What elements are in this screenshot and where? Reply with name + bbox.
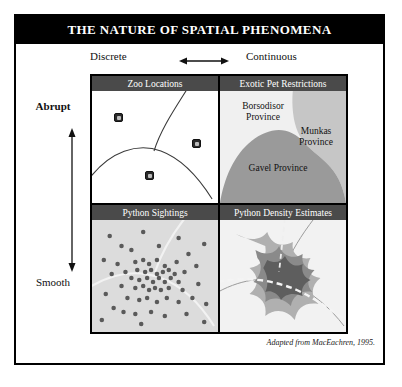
sighting-dot-map: [92, 220, 218, 332]
quadrant-exotic-pet-restrictions: Exotic Pet Restrictions Borsodisor Provi…: [219, 75, 347, 204]
axis-label-continuous: Continuous: [246, 50, 297, 62]
attribution-text: Adapted from MacEachren, 1995.: [267, 338, 376, 347]
quadrant-python-sightings: Python Sightings: [91, 204, 219, 333]
quadrant-zoo-locations: Zoo Locations: [91, 75, 219, 204]
quadrant-grid: Zoo Locations Exotic Pet Restrictions: [90, 74, 348, 334]
density-surface-map: [220, 220, 346, 332]
quadrant-body-python-sightings: [92, 220, 218, 332]
figure-container: THE NATURE OF SPATIAL PHENOMENA Discrete…: [14, 14, 385, 365]
quadrant-header-python-sightings: Python Sightings: [92, 205, 218, 220]
axis-label-smooth: Smooth: [16, 276, 90, 288]
figure-title-banner: THE NATURE OF SPATIAL PHENOMENA: [16, 16, 383, 44]
axis-label-discrete: Discrete: [90, 50, 127, 62]
axis-label-abrupt: Abrupt: [16, 100, 90, 112]
quadrant-header-exotic-pet-restrictions: Exotic Pet Restrictions: [220, 76, 346, 91]
province-label-munkas: Munkas Province: [286, 126, 346, 148]
quadrant-body-exotic-pet-restrictions: Borsodisor Province Munkas Province Gave…: [220, 91, 346, 203]
province-label-gavel: Gavel Province: [244, 163, 312, 174]
quadrant-header-zoo-locations: Zoo Locations: [92, 76, 218, 91]
double-arrow-horizontal-icon: [179, 56, 229, 66]
zoo-marker-icon: [145, 171, 154, 180]
page-title: THE NATURE OF SPATIAL PHENOMENA: [68, 22, 332, 38]
quadrant-body-zoo-locations: [92, 91, 218, 203]
double-arrow-vertical-icon: [66, 128, 78, 272]
horizontal-axis: Discrete Continuous: [16, 46, 383, 72]
province-label-borsodisor: Borsodisor Province: [226, 101, 300, 123]
zoo-marker-icon: [192, 139, 201, 148]
quadrant-python-density-estimates: Python Density Estimates: [219, 204, 347, 333]
vertical-axis: Abrupt Smooth: [16, 72, 90, 342]
quadrant-header-python-density-estimates: Python Density Estimates: [220, 205, 346, 220]
quadrant-body-python-density-estimates: [220, 220, 346, 332]
zoo-marker-icon: [114, 113, 123, 122]
